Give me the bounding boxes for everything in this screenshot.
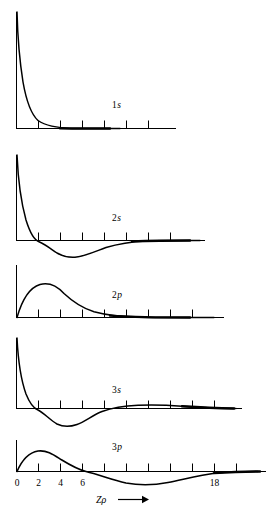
x-axis-title-group: Zρ [96, 494, 149, 505]
curve-1s [17, 12, 120, 129]
x-tick-label-2: 2 [36, 478, 41, 488]
panel-3s: 3s [16, 338, 242, 426]
x-tick-label-6: 6 [80, 478, 85, 488]
curve-3p-tail [214, 472, 260, 474]
x-tick-label-4: 4 [58, 478, 63, 488]
curve-2p [17, 284, 214, 318]
panel-2s: 2s [16, 155, 205, 257]
curve-2s [17, 155, 200, 257]
x-axis-title-arrow-head [142, 496, 149, 503]
panel-3p: 3p 0 2 4 6 18 --> Zρ [15, 440, 266, 505]
x-tick-labels: 0 2 4 6 18 [15, 478, 220, 488]
curve-2p-tail [110, 316, 190, 318]
panel-label-2s: 2s [112, 213, 121, 223]
panel-label-3s: 3s [112, 385, 121, 395]
panel-2p: 2p [16, 265, 224, 318]
x-ticks-3p [39, 464, 237, 472]
x-tick-label-0: 0 [15, 478, 20, 488]
panel-label-1s: 1s [112, 100, 121, 110]
x-ticks-2s [39, 233, 171, 241]
x-axis-title: Zρ [96, 494, 107, 505]
curve-2s-tail [132, 241, 190, 242]
figure-svg: 1s 2s [0, 0, 276, 512]
radial-wavefunction-figure: 1s 2s [0, 0, 276, 512]
panel-1s: 1s [16, 12, 176, 129]
panel-label-2p: 2p [112, 290, 122, 300]
curve-3p [17, 451, 258, 485]
x-tick-label-18: 18 [210, 478, 220, 488]
panel-label-3p: 3p [112, 442, 122, 452]
curve-3s [17, 338, 236, 426]
